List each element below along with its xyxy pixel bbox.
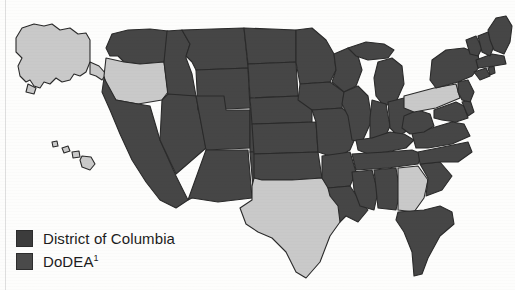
legend-footnote-marker: 1 [94, 253, 99, 263]
state-NJ [458, 80, 474, 102]
legend-item-dodea: DoDEA1 [16, 253, 175, 270]
state-HI-island-1 [52, 141, 58, 147]
state-MN [296, 28, 336, 84]
state-RI [488, 66, 495, 75]
color-swatch-icon [16, 253, 33, 270]
state-MA [476, 54, 506, 68]
legend-item-label: District of Columbia [43, 230, 175, 247]
state-HI-island-2 [62, 146, 70, 153]
state-MT [182, 28, 248, 70]
state-HI-island-4 [80, 156, 95, 170]
state-AK [16, 24, 90, 88]
legend-item-district-of-columbia: District of Columbia [16, 230, 175, 247]
state-WA [106, 29, 168, 64]
state-HI-island-3 [72, 151, 80, 158]
state-GA [398, 166, 428, 212]
state-ND [244, 28, 296, 64]
legend-item-label: DoDEA1 [43, 253, 99, 270]
state-SD [248, 62, 298, 98]
map-legend: District of Columbia DoDEA1 [16, 230, 175, 270]
state-FL [396, 206, 454, 276]
state-AZ [188, 150, 252, 202]
legend-item-label-text: DoDEA [43, 253, 94, 270]
color-swatch-icon [16, 230, 33, 247]
state-KS [252, 122, 318, 154]
clipped-header-text [18, 0, 488, 5]
state-AR [322, 152, 356, 188]
state-OK [254, 152, 322, 180]
page-margin-rule [5, 0, 6, 290]
state-AL [374, 168, 400, 210]
state-AK-panhandle [90, 62, 106, 80]
